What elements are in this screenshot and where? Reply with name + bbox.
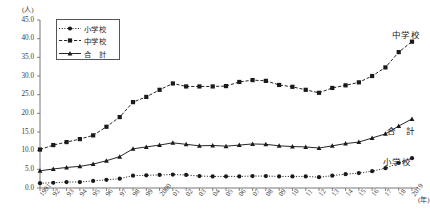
data-point: [304, 174, 308, 178]
data-point: [277, 83, 281, 87]
data-point: [144, 95, 148, 99]
series-annotation-label: 中学校: [392, 28, 421, 40]
data-point: [410, 116, 415, 121]
chart-series-2: [38, 116, 415, 172]
legend-item-1[interactable]: 中学校: [57, 34, 121, 47]
data-point: [184, 173, 188, 177]
data-point: [224, 84, 228, 88]
data-point: [78, 180, 82, 184]
chart-series-0: [38, 156, 414, 185]
data-point: [237, 80, 241, 84]
data-point: [290, 85, 294, 89]
data-point: [131, 174, 135, 178]
data-point: [330, 86, 334, 90]
data-point: [117, 154, 122, 159]
data-point: [118, 115, 122, 119]
legend-item-label: 合 計: [84, 48, 106, 59]
data-point: [51, 181, 55, 185]
data-point: [304, 88, 308, 92]
data-point: [277, 174, 281, 178]
legend-swatch-icon: [57, 48, 83, 59]
data-point: [78, 137, 82, 141]
y-axis-tick-label: 30.0: [12, 72, 34, 80]
y-axis-tick-label: 0.0: [12, 184, 34, 192]
data-point: [91, 179, 95, 183]
data-point: [118, 177, 122, 181]
data-point: [224, 174, 228, 178]
legend-item-2[interactable]: 合 計: [57, 47, 121, 60]
y-axis-tick-label: 35.0: [12, 53, 34, 61]
y-axis-tick-label: 15.0: [12, 128, 34, 136]
data-point: [397, 50, 401, 54]
data-point: [91, 133, 95, 137]
data-point: [290, 174, 294, 178]
data-point: [357, 171, 361, 175]
data-point: [264, 79, 268, 83]
y-axis-tick-label: 40.0: [12, 34, 34, 42]
legend-item-label: 小学校: [84, 23, 106, 34]
chart-legend: 小学校中学校合 計: [56, 19, 120, 60]
data-point: [197, 174, 201, 178]
data-point: [317, 175, 321, 179]
data-point: [104, 125, 108, 129]
data-point: [343, 172, 347, 176]
data-point: [317, 91, 321, 95]
series-annotation-label: 合 計: [387, 124, 416, 136]
data-point: [64, 140, 68, 144]
data-point: [237, 174, 241, 178]
y-axis-tick-label: 20.0: [12, 109, 34, 117]
data-point: [51, 143, 55, 147]
data-point: [330, 174, 334, 178]
data-point: [104, 178, 108, 182]
data-point: [144, 173, 148, 177]
y-axis-tick-label: 25.0: [12, 90, 34, 98]
y-axis-tick-label: 5.0: [12, 165, 34, 173]
data-point: [410, 40, 414, 44]
y-axis-tick-label: 45.0: [12, 16, 34, 24]
legend-item-0[interactable]: 小学校: [57, 22, 121, 35]
x-axis-unit-label: (年): [418, 194, 430, 204]
data-point: [171, 81, 175, 85]
data-point: [211, 84, 215, 88]
data-point: [250, 174, 254, 178]
data-point: [64, 180, 68, 184]
data-point: [211, 174, 215, 178]
data-point: [250, 78, 254, 82]
data-point: [157, 88, 161, 92]
data-point: [38, 147, 42, 151]
data-point: [157, 173, 161, 177]
legend-item-label: 中学校: [84, 35, 106, 46]
data-point: [197, 84, 201, 88]
data-point: [264, 174, 268, 178]
data-point: [370, 74, 374, 78]
data-point: [38, 181, 42, 185]
data-point: [343, 83, 347, 87]
data-point: [383, 65, 387, 69]
data-point: [370, 169, 374, 173]
data-point: [357, 80, 361, 84]
data-point: [131, 100, 135, 104]
legend-swatch-icon: [57, 35, 83, 46]
legend-swatch-icon: [57, 23, 83, 34]
data-point: [184, 84, 188, 88]
data-point: [171, 172, 175, 176]
y-axis-tick-label: 10.0: [12, 146, 34, 154]
series-annotation-label: 小学校: [383, 155, 412, 167]
